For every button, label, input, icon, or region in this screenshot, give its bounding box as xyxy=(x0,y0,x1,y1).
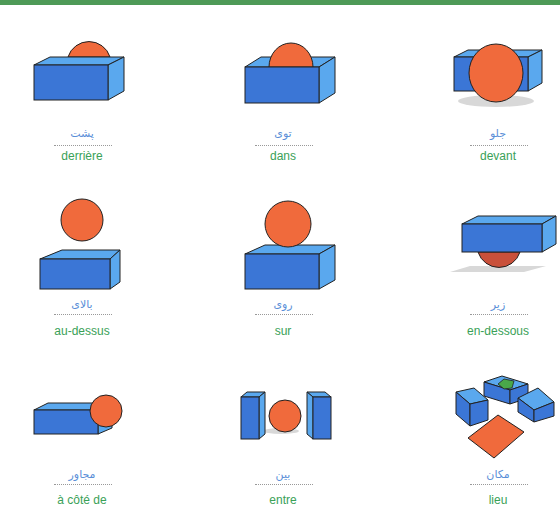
arabic-label: بالای xyxy=(2,298,162,311)
vocab-card-dans: توی dans xyxy=(203,35,363,175)
arabic-label: مکان xyxy=(418,468,560,481)
vocab-card-lieu: مکان lieu xyxy=(418,370,560,513)
french-label: derrière xyxy=(2,149,162,163)
french-label: devant xyxy=(418,149,560,163)
header-bar xyxy=(0,0,560,5)
place-icon xyxy=(418,370,560,465)
arabic-label: روی xyxy=(203,298,363,311)
arabic-label: زیر xyxy=(418,298,560,311)
vocab-card-en-dessous: زیر en-dessous xyxy=(418,190,560,350)
divider xyxy=(255,484,313,485)
divider xyxy=(54,484,112,485)
arabic-label: مجاور xyxy=(2,468,162,481)
divider xyxy=(470,314,528,315)
french-label: sur xyxy=(203,324,363,338)
arabic-label: بین xyxy=(203,468,363,481)
vocab-card-a-cote-de: مجاور à côté de xyxy=(2,370,162,513)
divider xyxy=(54,314,112,315)
box-ball-behind-icon xyxy=(2,35,162,125)
divider xyxy=(470,484,528,485)
arabic-label: جلو xyxy=(418,127,560,140)
ball-in-front-of-box-icon xyxy=(418,35,560,125)
ball-under-box-icon xyxy=(418,190,560,300)
vocab-card-au-dessus: بالای au-dessus xyxy=(2,190,162,350)
vocab-card-sur: روی sur xyxy=(203,190,363,350)
french-label: en-dessous xyxy=(418,324,560,338)
french-label: au-dessus xyxy=(2,324,162,338)
divider xyxy=(255,145,313,146)
divider xyxy=(54,145,112,146)
ball-beside-box-icon xyxy=(2,370,162,460)
arabic-label: توی xyxy=(203,127,363,140)
vocab-card-devant: جلو devant xyxy=(418,35,560,175)
french-label: lieu xyxy=(418,493,560,507)
arabic-label: پشت xyxy=(2,127,162,140)
french-label: à côté de xyxy=(2,493,162,507)
ball-between-boxes-icon xyxy=(203,370,363,460)
ball-on-box-icon xyxy=(203,190,363,300)
ball-above-box-icon xyxy=(2,190,162,300)
divider xyxy=(470,145,528,146)
vocab-card-entre: بین entre xyxy=(203,370,363,513)
box-ball-inside-icon xyxy=(203,35,363,125)
french-label: dans xyxy=(203,149,363,163)
french-label: entre xyxy=(203,493,363,507)
divider xyxy=(255,314,313,315)
vocab-card-derriere: پشت derrière xyxy=(2,35,162,175)
